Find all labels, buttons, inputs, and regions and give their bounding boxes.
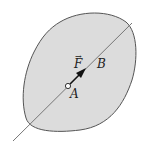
diagram-canvas: F → B A <box>0 0 144 151</box>
diagram-svg: F → B A <box>0 0 144 151</box>
point-a-label: A <box>69 87 79 101</box>
point-b-label: B <box>96 57 106 71</box>
vector-arrow-mark: → <box>75 52 82 61</box>
